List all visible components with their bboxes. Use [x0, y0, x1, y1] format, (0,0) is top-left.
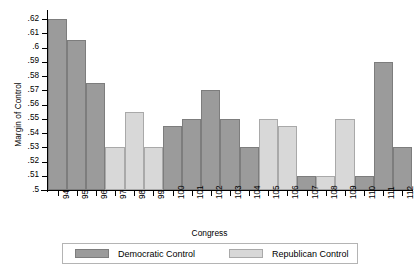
y-tick-label: .62	[28, 14, 39, 23]
y-tick-mark	[42, 33, 47, 34]
x-tick-label-106: 106	[291, 185, 300, 199]
x-tick-mark	[77, 191, 78, 196]
x-tick-label-95: 95	[81, 190, 90, 199]
x-tick-mark	[402, 191, 403, 196]
x-tick-mark	[115, 191, 116, 196]
x-tick-mark	[287, 191, 288, 196]
y-tick-label: .5	[32, 185, 39, 194]
bar-congress-98	[125, 112, 144, 190]
x-tick-label-111: 111	[387, 187, 396, 199]
legend-label-republican: Republican Control	[272, 249, 349, 259]
x-tick-label-107: 107	[311, 185, 320, 199]
y-tick-label: .52	[28, 156, 39, 165]
x-tick-label-96: 96	[100, 190, 109, 199]
x-tick-mark	[192, 191, 193, 196]
bar-congress-103	[220, 119, 239, 190]
y-tick-label: .61	[28, 28, 39, 37]
y-tick-mark	[42, 147, 47, 148]
y-tick-mark	[42, 76, 47, 77]
y-tick-label: .57	[28, 85, 39, 94]
bar-congress-95	[67, 40, 86, 190]
y-tick-label: .55	[28, 113, 39, 122]
x-axis-title: Congress	[0, 228, 419, 238]
x-tick-label-104: 104	[253, 185, 262, 199]
x-tick-mark	[58, 191, 59, 196]
x-tick-label-103: 103	[234, 185, 243, 199]
chart-legend: Democratic Control Republican Control	[62, 243, 358, 264]
bar-congress-104	[240, 147, 259, 190]
y-tick-label: .56	[28, 99, 39, 108]
x-tick-mark	[153, 191, 154, 196]
y-tick-mark	[42, 176, 47, 177]
y-tick-mark	[42, 48, 47, 49]
y-tick-mark	[42, 62, 47, 63]
legend-label-democratic: Democratic Control	[118, 249, 195, 259]
x-tick-mark	[211, 191, 212, 196]
bar-congress-94	[48, 19, 67, 190]
x-tick-mark	[307, 191, 308, 196]
legend-swatch-democratic	[75, 249, 109, 258]
y-tick-label: .58	[28, 71, 39, 80]
x-tick-mark	[345, 191, 346, 196]
y-tick-label: .54	[28, 128, 39, 137]
x-tick-label-110: 110	[368, 186, 377, 199]
x-tick-label-109: 109	[349, 185, 358, 199]
bar-congress-109	[335, 119, 354, 190]
x-tick-mark	[364, 191, 365, 196]
bar-congress-106	[278, 126, 297, 190]
y-tick-label: .59	[28, 56, 39, 65]
x-tick-label-99: 99	[157, 190, 166, 199]
bar-congress-105	[259, 119, 278, 190]
x-tick-mark	[383, 191, 384, 196]
x-tick-mark	[173, 191, 174, 196]
x-tick-label-102: 102	[215, 185, 224, 199]
x-tick-mark	[96, 191, 97, 196]
y-tick-mark	[42, 19, 47, 20]
y-tick-mark	[42, 105, 47, 106]
bar-congress-111	[374, 62, 393, 190]
y-tick-mark	[42, 133, 47, 134]
y-tick-mark	[42, 119, 47, 120]
legend-item-democratic: Democratic Control	[75, 244, 195, 263]
y-tick-mark	[42, 90, 47, 91]
y-tick-mark	[42, 190, 47, 191]
x-tick-label-100: 100	[177, 185, 186, 199]
x-tick-mark	[230, 191, 231, 196]
y-axis-title: Margin of Control	[14, 55, 23, 175]
bar-congress-101	[182, 119, 201, 190]
legend-swatch-republican	[229, 249, 263, 258]
y-tick-label: .6	[32, 42, 39, 51]
bar-chart-figure: Margin of Control .5.51.52.53.54.55.56.5…	[0, 0, 419, 271]
y-tick-label: .51	[28, 170, 39, 179]
x-tick-label-94: 94	[62, 190, 71, 199]
y-tick-mark	[42, 162, 47, 163]
x-tick-mark	[268, 191, 269, 196]
x-tick-mark	[249, 191, 250, 196]
x-tick-label-112: 112	[406, 186, 415, 199]
bar-congress-102	[201, 90, 220, 190]
x-tick-label-101: 101	[196, 185, 205, 199]
x-tick-label-97: 97	[119, 190, 128, 199]
x-tick-mark	[326, 191, 327, 196]
bar-congress-99	[144, 147, 163, 190]
x-tick-label-108: 108	[330, 185, 339, 199]
y-tick-label: .53	[28, 142, 39, 151]
legend-item-republican: Republican Control	[229, 244, 349, 263]
bar-congress-96	[86, 83, 105, 190]
bar-congress-100	[163, 126, 182, 190]
plot-area	[48, 12, 412, 190]
x-tick-label-105: 105	[272, 185, 281, 199]
x-tick-mark	[134, 191, 135, 196]
bar-congress-112	[393, 147, 412, 190]
x-tick-label-98: 98	[138, 190, 147, 199]
bar-congress-97	[105, 147, 124, 190]
